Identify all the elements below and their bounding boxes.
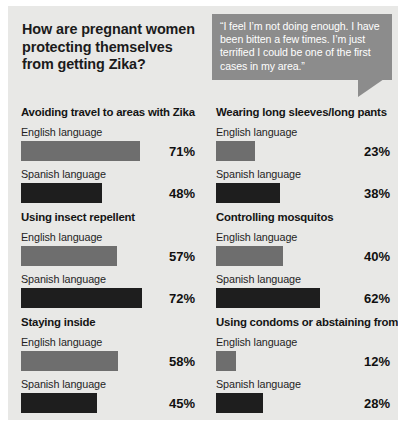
spanish-bar-row: 28% [216, 393, 390, 413]
spanish-value: 62% [320, 291, 390, 306]
english-label: English language [21, 126, 195, 139]
metric-group: Avoiding travel to areas with Zika Engli… [8, 98, 203, 203]
metric-group-title: Avoiding travel to areas with Zika [21, 106, 195, 119]
english-bar-row: 40% [216, 246, 390, 266]
spanish-bar [21, 393, 97, 413]
spanish-bar [21, 183, 102, 203]
spanish-bar [216, 183, 280, 203]
infographic-panel: How are pregnant women protecting themse… [8, 6, 398, 420]
metrics-row: Using insect repellent English language … [8, 203, 398, 308]
english-bar-row: 71% [21, 141, 195, 161]
metrics-row: Staying inside English language 58% Span… [8, 308, 398, 413]
spanish-value: 38% [280, 186, 390, 201]
spanish-bar-row: 72% [21, 288, 195, 308]
english-label: English language [216, 336, 390, 349]
english-label: English language [216, 126, 390, 139]
spanish-bar-row: 45% [21, 393, 195, 413]
page-title: How are pregnant women protecting themse… [22, 21, 207, 74]
metric-group-title: Wearing long sleeves/long pants [216, 106, 390, 119]
spanish-value: 72% [142, 291, 195, 306]
metric-group: Using insect repellent English language … [8, 203, 203, 308]
spanish-label: Spanish language [21, 378, 195, 391]
metric-group-title: Using condoms or abstaining from sex [216, 316, 390, 329]
english-bar [21, 246, 117, 266]
metric-group: Controlling mosquitos English language 4… [203, 203, 398, 308]
quote-text: “I feel I’m not doing enough. I have bee… [220, 20, 384, 73]
english-bar-row: 12% [216, 351, 390, 371]
metric-group-title: Staying inside [21, 316, 195, 329]
metric-group-title: Using insect repellent [21, 211, 195, 224]
english-label: English language [216, 231, 390, 244]
english-value: 71% [140, 144, 195, 159]
english-value: 12% [236, 354, 390, 369]
quote-box: “I feel I’m not doing enough. I have bee… [212, 14, 392, 80]
metrics-grid: Avoiding travel to areas with Zika Engli… [8, 98, 398, 413]
spanish-bar [216, 393, 263, 413]
spanish-label: Spanish language [216, 168, 390, 181]
speech-bubble-tail-icon [358, 79, 384, 97]
spanish-bar [216, 288, 320, 308]
spanish-value: 48% [102, 186, 195, 201]
english-value: 40% [283, 249, 390, 264]
english-value: 58% [118, 354, 195, 369]
english-label: English language [21, 231, 195, 244]
english-bar-row: 23% [216, 141, 390, 161]
english-bar-row: 57% [21, 246, 195, 266]
metric-group-title: Controlling mosquitos [216, 211, 390, 224]
metric-group: Staying inside English language 58% Span… [8, 308, 203, 413]
english-value: 23% [255, 144, 390, 159]
header-area: How are pregnant women protecting themse… [8, 6, 398, 98]
english-value: 57% [117, 249, 195, 264]
spanish-label: Spanish language [216, 273, 390, 286]
spanish-value: 45% [97, 396, 195, 411]
english-bar-row: 58% [21, 351, 195, 371]
spanish-bar-row: 48% [21, 183, 195, 203]
english-bar [21, 351, 118, 371]
metric-group: Using condoms or abstaining from sex Eng… [203, 308, 398, 413]
english-label: English language [21, 336, 195, 349]
english-bar [21, 141, 140, 161]
english-bar [216, 246, 283, 266]
metrics-row: Avoiding travel to areas with Zika Engli… [8, 98, 398, 203]
metric-group: Wearing long sleeves/long pants English … [203, 98, 398, 203]
spanish-label: Spanish language [216, 378, 390, 391]
spanish-label: Spanish language [21, 168, 195, 181]
spanish-bar [21, 288, 142, 308]
spanish-label: Spanish language [21, 273, 195, 286]
spanish-bar-row: 62% [216, 288, 390, 308]
quote-callout: “I feel I’m not doing enough. I have bee… [212, 14, 392, 80]
spanish-value: 28% [263, 396, 390, 411]
english-bar [216, 351, 236, 371]
english-bar [216, 141, 255, 161]
spanish-bar-row: 38% [216, 183, 390, 203]
